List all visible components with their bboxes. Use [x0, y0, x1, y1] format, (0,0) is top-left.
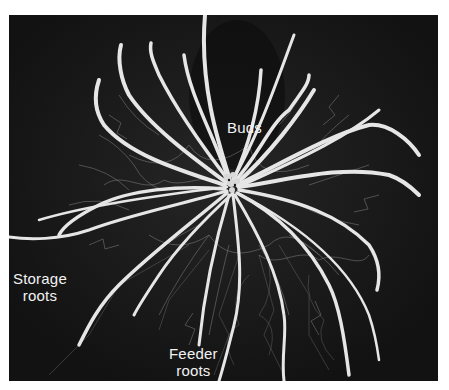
feeder-roots-label: Feeder roots	[169, 345, 218, 379]
roots-illustration	[9, 15, 438, 381]
buds-label: Buds	[227, 119, 262, 136]
root-system-photo: Buds Storage roots Feeder roots	[9, 15, 438, 381]
storage-roots-label: Storage roots	[13, 270, 67, 304]
